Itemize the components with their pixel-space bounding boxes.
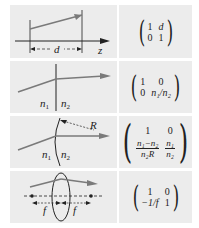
matrix-b: d (159, 21, 164, 32)
matrix-d: n₁/n₂ (151, 87, 171, 98)
dimension-arrow-left-icon (30, 47, 35, 51)
curved-interface-illustration: R n1 n2 (10, 116, 117, 168)
matrix-d: 1 (165, 197, 170, 208)
thin-lens-illustration: f f (10, 171, 117, 223)
n1-label: n1 (42, 148, 52, 162)
curved-interface-matrix: ( 1 0 n₁−n₂n₂R n₁n₂ ) (119, 116, 192, 168)
ray-arrow-icon (100, 73, 111, 79)
matrix-a: 1 (148, 21, 153, 32)
free-space-matrix-cell: ( 1 d 0 1 ) (119, 5, 192, 58)
ray-arrow-icon (74, 14, 82, 20)
refracted-ray (61, 179, 90, 183)
free-space-matrix: ( 1 d 0 1 ) (119, 5, 192, 58)
flat-interface-matrix: ( 1 0 0 n₁/n₂ ) (119, 61, 192, 113)
matrix-d: 1 (159, 32, 164, 43)
curved-interface-diagram: R n1 n2 (10, 116, 117, 168)
thin-lens-matrix: ( 1 0 −1/f 1 ) (119, 171, 192, 223)
radius-label: R (89, 119, 97, 131)
matrix-a: 1 (141, 186, 158, 197)
matrix-a: 1 (140, 76, 145, 87)
matrix-c: −1/f (141, 197, 158, 208)
matrix-c: n₁−n₂n₂R (136, 138, 159, 159)
curved-surface (55, 118, 60, 166)
matrix-b: 0 (151, 76, 171, 87)
focal-point-left (30, 194, 34, 198)
ray-arrow-icon (99, 133, 110, 139)
ray-line (30, 15, 82, 29)
incident-ray (30, 179, 61, 187)
matrix-d: n₁n₂ (165, 138, 175, 159)
refracted-ray (56, 76, 104, 79)
distance-label: d (54, 43, 60, 55)
flat-interface-illustration: n1 n2 (10, 61, 117, 113)
n2-label: n2 (61, 97, 71, 111)
flat-interface-matrix-cell: ( 1 0 0 n₁/n₂ ) (119, 61, 192, 113)
flat-interface-diagram: n1 n2 (10, 61, 117, 113)
matrix-c: 0 (140, 87, 145, 98)
matrix-b: 0 (165, 186, 170, 197)
matrix-b: 0 (165, 125, 175, 136)
matrix-a: 1 (136, 125, 159, 136)
radius-arrow-icon (60, 120, 67, 124)
dimension-arrow-right-icon (77, 47, 82, 51)
thin-lens-diagram: f f (10, 171, 117, 223)
free-space-diagram: d z (10, 5, 117, 58)
focal-label-left: f (43, 204, 48, 216)
ray-arrow-icon (87, 180, 98, 186)
n2-label: n2 (61, 148, 71, 162)
thin-lens-matrix-cell: ( 1 0 −1/f 1 ) (119, 171, 192, 223)
focal-point-right (89, 194, 93, 198)
curved-interface-matrix-cell: ( 1 0 n₁−n₂n₂R n₁n₂ ) (119, 116, 192, 168)
focal-label-right: f (73, 204, 78, 216)
n1-label: n1 (40, 97, 50, 111)
axis-label: z (97, 44, 103, 56)
matrix-c: 0 (148, 32, 153, 43)
free-space-illustration: d z (10, 5, 117, 58)
incident-ray (18, 79, 56, 92)
incident-ray (18, 136, 56, 150)
